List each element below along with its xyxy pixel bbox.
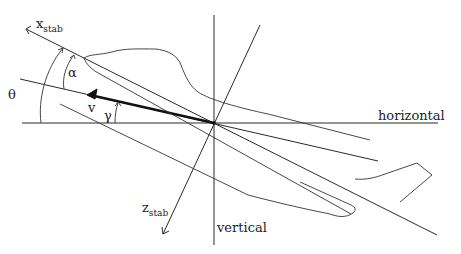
fuselage-belly bbox=[60, 104, 330, 214]
velocity-arrowhead-icon bbox=[87, 89, 97, 99]
velocity-label: v bbox=[87, 100, 96, 115]
x-stab-axis bbox=[26, 29, 437, 235]
vertical-label: vertical bbox=[216, 220, 267, 235]
tail-fin bbox=[355, 163, 432, 202]
pivot-point bbox=[212, 121, 216, 125]
horizontal-label: horizontal bbox=[378, 108, 445, 123]
fuselage-nose bbox=[84, 58, 100, 74]
flight-axes-diagram: horizontal vertical xstab zstab v θ bbox=[0, 0, 461, 254]
x-stab-label: xstab bbox=[36, 16, 63, 34]
gamma-label: γ bbox=[104, 108, 112, 123]
z-stab-axis bbox=[163, 25, 260, 234]
theta-arc bbox=[40, 48, 63, 123]
theta-label: θ bbox=[8, 87, 16, 102]
z-stab-label: zstab bbox=[142, 200, 168, 218]
fuselage-lower bbox=[100, 74, 351, 214]
alpha-label: α bbox=[68, 65, 77, 80]
